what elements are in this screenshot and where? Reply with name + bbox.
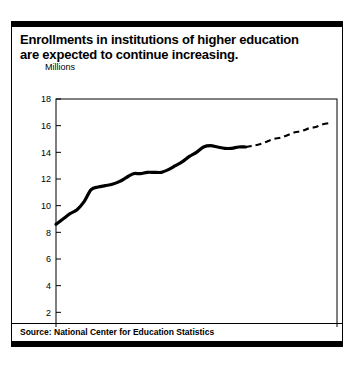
source-divider xyxy=(12,323,342,324)
svg-text:12: 12 xyxy=(41,174,51,184)
y-axis-ticks: 024681012141618 xyxy=(41,94,61,327)
title-line-1: Enrollments in institutions of higher ed… xyxy=(20,32,334,47)
svg-text:8: 8 xyxy=(46,228,51,238)
svg-text:14: 14 xyxy=(41,148,51,158)
svg-text:10: 10 xyxy=(41,201,51,211)
title-line-2: are expected to continue increasing. xyxy=(20,47,334,62)
svg-text:4: 4 xyxy=(46,281,51,291)
plot-area: Millions 024681012141618 197019751980198… xyxy=(12,62,344,327)
series-projected-enrollment xyxy=(246,123,330,147)
source-note: Source: National Center for Education St… xyxy=(20,327,214,337)
bottom-rule xyxy=(12,341,342,346)
series-actual-enrollment xyxy=(56,146,246,225)
chart-figure: Enrollments in institutions of higher ed… xyxy=(11,21,343,347)
svg-text:6: 6 xyxy=(46,254,51,264)
svg-text:2: 2 xyxy=(46,308,51,318)
svg-text:16: 16 xyxy=(41,121,51,131)
svg-text:18: 18 xyxy=(41,94,51,104)
line-chart-svg: 024681012141618 197019751980198519901995… xyxy=(12,62,344,327)
chart-title: Enrollments in institutions of higher ed… xyxy=(12,27,342,65)
